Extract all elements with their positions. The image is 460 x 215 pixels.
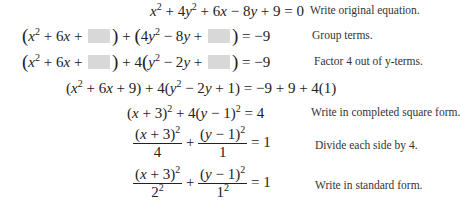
- step-5-label: Write in completed square form.: [311, 106, 460, 118]
- blank-box-y: [208, 29, 230, 43]
- step-7-label: Write in standard form.: [315, 179, 422, 191]
- equation-step-3: (x2 + 6x + ) + 4(y2 − 2y + ) = −9: [22, 53, 270, 71]
- fraction-y: (y − 1)21: [198, 126, 247, 161]
- equation-step-5: (x + 3)2 + 4(y − 1)2 = 4: [127, 104, 264, 122]
- fraction-y: (y − 1)212: [198, 166, 247, 201]
- step-2-label: Group terms.: [312, 29, 373, 41]
- step-6-label: Divide each side by 4.: [315, 139, 418, 151]
- fraction-x: (x + 3)24: [133, 126, 182, 161]
- equation-step-2: (x2 + 6x + ) + (4y2 − 8y + ) = −9: [22, 27, 270, 45]
- blank-box-y: [208, 55, 230, 69]
- step-1-label: Write original equation.: [310, 4, 420, 16]
- equation-step-6: (x + 3)24 + (y − 1)21 = 1: [133, 126, 271, 161]
- fraction-x: (x + 3)222: [133, 166, 182, 201]
- equation-step-1: x2 + 4y2 + 6x − 8y + 9 = 0: [150, 2, 304, 20]
- step-3-label: Factor 4 out of y-terms.: [314, 55, 423, 67]
- blank-box-x: [88, 55, 110, 69]
- equation-step-4: (x2 + 6x + 9) + 4(y2 − 2y + 1) = −9 + 9 …: [66, 79, 336, 97]
- equation-step-7: (x + 3)222 + (y − 1)212 = 1: [133, 166, 271, 201]
- blank-box-x: [88, 29, 110, 43]
